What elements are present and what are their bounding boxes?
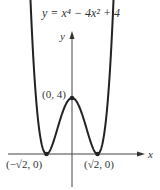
right-min-label: (√2, 0) bbox=[84, 158, 114, 171]
function-title: y = x⁴ − 4x² + 4 bbox=[41, 6, 120, 20]
right-min-point bbox=[95, 152, 100, 157]
x-axis-label: x bbox=[147, 148, 153, 160]
graph: y = x⁴ − 4x² + 4 x y (0, 4) (−√2, 0) (√2… bbox=[0, 0, 160, 190]
max-point-label: (0, 4) bbox=[42, 88, 66, 101]
max-point bbox=[70, 96, 75, 101]
left-min-point bbox=[44, 152, 49, 157]
y-axis-label: y bbox=[59, 30, 65, 42]
x-axis-arrow-icon bbox=[137, 152, 145, 157]
left-min-label: (−√2, 0) bbox=[6, 158, 42, 171]
y-axis-arrow-icon bbox=[70, 31, 75, 39]
